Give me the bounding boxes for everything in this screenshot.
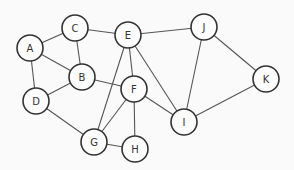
node-i: I	[171, 109, 197, 135]
node-label: F	[131, 84, 137, 95]
node-f: F	[121, 76, 147, 102]
node-label: B	[79, 72, 86, 83]
node-d: D	[23, 88, 49, 114]
node-label: C	[72, 23, 79, 34]
node-label: G	[90, 137, 98, 148]
node-h: H	[122, 136, 148, 162]
node-k: K	[253, 66, 279, 92]
node-label: E	[125, 30, 131, 41]
node-label: A	[27, 43, 34, 54]
node-j: J	[191, 14, 217, 40]
node-b: B	[69, 64, 95, 90]
node-label: H	[131, 144, 139, 155]
edges-layer	[30, 27, 266, 149]
node-g: G	[81, 129, 107, 155]
node-label: J	[202, 22, 206, 33]
node-e: E	[115, 22, 141, 48]
node-label: I	[183, 117, 186, 128]
edge-j-i	[184, 27, 204, 122]
node-label: D	[32, 96, 40, 107]
node-label: K	[263, 74, 270, 85]
graph-diagram: ACEJBFDKIGH	[0, 0, 294, 170]
node-c: C	[62, 15, 88, 41]
edge-k-i	[184, 79, 266, 122]
node-a: A	[17, 35, 43, 61]
